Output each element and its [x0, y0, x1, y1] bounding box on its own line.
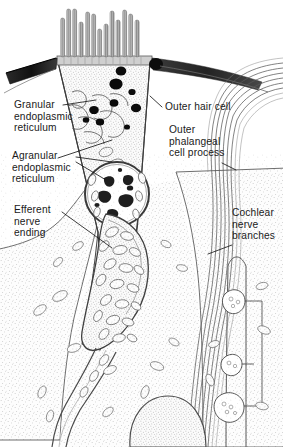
tight-junction-left	[4, 58, 57, 93]
cuticular-plate	[57, 56, 152, 65]
anatomical-illustration	[0, 0, 283, 447]
anatomical-figure: Granular endoplasmic reticulum Agranular…	[0, 0, 283, 447]
stereocilia-bundle	[61, 9, 140, 57]
tight-junction-right	[149, 58, 268, 92]
leader-outer-hair-cell	[150, 96, 162, 107]
